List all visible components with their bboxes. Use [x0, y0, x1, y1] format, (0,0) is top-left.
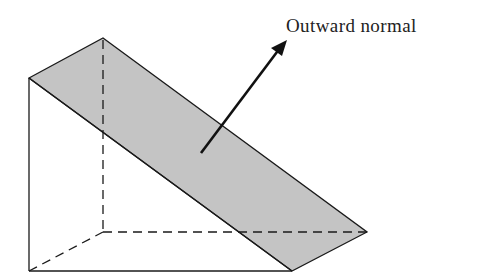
inclined-shaded-face [29, 38, 367, 271]
prism-diagram: Outward normal [0, 0, 477, 280]
outward-normal-arrow [201, 40, 287, 153]
outward-normal-label: Outward normal [286, 15, 417, 36]
arrowhead-icon [271, 40, 287, 56]
bottom-left-depth-hidden-edge [29, 232, 103, 271]
